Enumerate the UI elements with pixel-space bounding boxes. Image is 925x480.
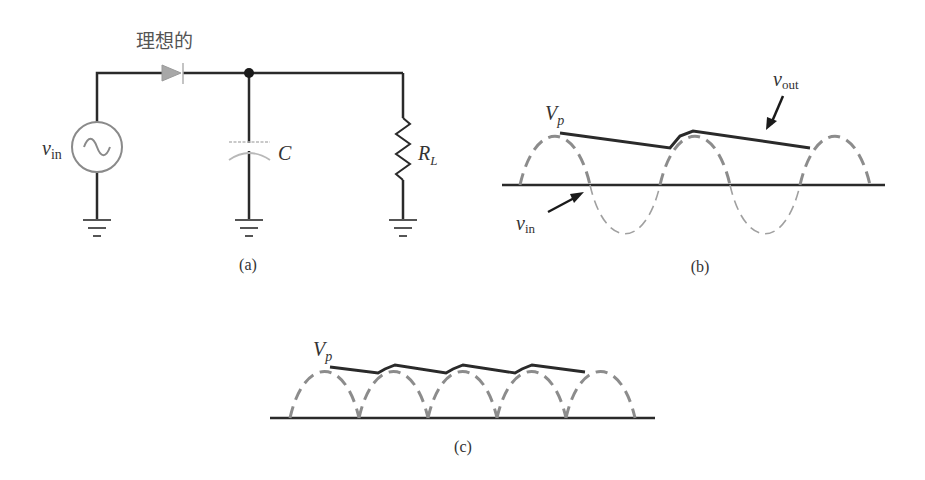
vin-negative-halves <box>590 185 800 234</box>
junction-dot-icon <box>244 68 254 78</box>
diode-label: 理想的 <box>136 30 193 52</box>
vin-positive-halves <box>520 136 870 185</box>
vout-line <box>330 365 585 373</box>
caption-a: (a) <box>239 256 257 274</box>
ground-icon <box>235 220 263 236</box>
vout-label: vout <box>773 68 799 92</box>
resistor-label: RL <box>417 142 437 168</box>
source-label: vin <box>42 137 62 162</box>
rectifier-figure: 理想的 vin C RL (a) Vp vout vin <box>0 0 925 480</box>
vout-line <box>560 131 810 148</box>
circuit-a <box>97 73 403 220</box>
arrow-icon <box>766 96 783 130</box>
ground-icon <box>83 220 111 236</box>
ground-icon <box>389 220 417 236</box>
caption-c: (c) <box>454 438 472 456</box>
waveform-c <box>270 365 655 418</box>
vin-label-b: vin <box>516 212 536 236</box>
resistor-icon <box>396 118 410 180</box>
waveform-b <box>502 131 885 234</box>
vp-label-c: Vp <box>313 338 332 364</box>
arrow-icon <box>548 192 584 212</box>
ac-source-icon <box>72 122 122 172</box>
top-wire <box>97 73 162 122</box>
capacitor-label: C <box>278 142 292 164</box>
caption-b: (b) <box>691 258 710 276</box>
diode-icon <box>162 63 183 84</box>
rectified-humps <box>290 372 635 419</box>
vp-label-b: Vp <box>545 102 564 128</box>
